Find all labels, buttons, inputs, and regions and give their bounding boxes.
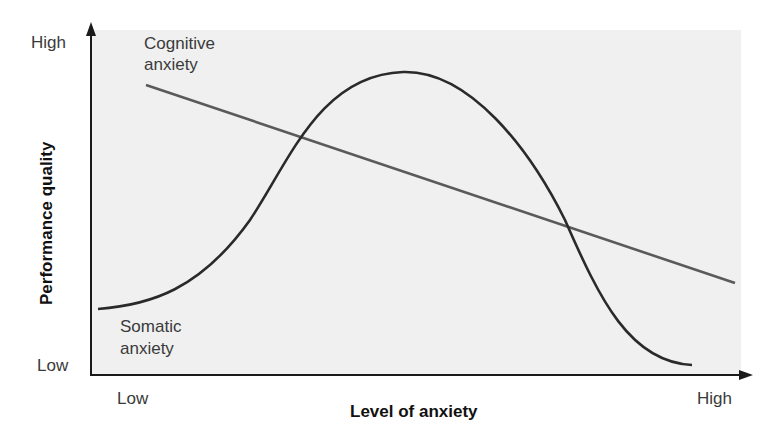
somatic-anxiety-label-line1: Somatic bbox=[120, 317, 182, 336]
chart-svg: High Low Low High Level of anxiety Perfo… bbox=[0, 0, 776, 445]
cognitive-anxiety-label-line2: anxiety bbox=[144, 55, 198, 74]
x-axis-arrow-icon bbox=[739, 370, 753, 380]
x-tick-high: High bbox=[697, 389, 732, 408]
y-axis-arrow-icon bbox=[86, 22, 96, 36]
x-tick-low: Low bbox=[117, 389, 149, 408]
anxiety-performance-figure: High Low Low High Level of anxiety Perfo… bbox=[0, 0, 776, 445]
y-tick-high: High bbox=[31, 33, 66, 52]
plot-background bbox=[91, 30, 741, 375]
x-axis-title: Level of anxiety bbox=[350, 402, 478, 421]
y-tick-low: Low bbox=[37, 356, 69, 375]
y-axis-title: Performance quality bbox=[37, 141, 56, 305]
cognitive-anxiety-label-line1: Cognitive bbox=[144, 34, 215, 53]
somatic-anxiety-label-line2: anxiety bbox=[120, 339, 174, 358]
